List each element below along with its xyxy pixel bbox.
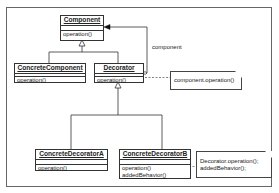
operation: addedBehavior() [120,172,190,179]
class-name: ConcreteComponent [15,64,85,74]
class-name: Component [61,16,103,26]
operation: operation() [95,77,143,84]
operation: operation() [15,77,85,84]
note-fold-icon [235,71,242,78]
note-text-line: addedBehavior(); [200,165,268,172]
class-concrete-decorator-b[interactable]: ConcreteDecoratorB operation() addedBeha… [119,149,191,179]
class-concrete-decorator-a[interactable]: ConcreteDecoratorA operation() [35,149,108,171]
operation: operation() [61,31,103,38]
class-name: ConcreteDecoratorA [36,150,107,160]
operation: operation() [120,165,190,172]
class-name: ConcreteDecoratorB [120,150,190,160]
class-concrete-component[interactable]: ConcreteComponent operation() [14,63,86,83]
class-name: Decorator [95,64,143,74]
navigability-arrow-icon [104,25,110,30]
operation: operation() [36,165,107,172]
note-decorator-operation: component.operation() [170,71,242,90]
association-role-label: component [152,44,182,50]
class-component[interactable]: Component operation() [60,15,104,41]
note-text-line: Decorator.operation(); [200,158,268,165]
note-text: component.operation() [174,77,234,83]
note-fold-icon [265,151,272,158]
note-concrete-decorator-b: Decorator.operation(); addedBehavior(); [196,151,272,178]
class-decorator[interactable]: Decorator operation() [94,63,144,83]
